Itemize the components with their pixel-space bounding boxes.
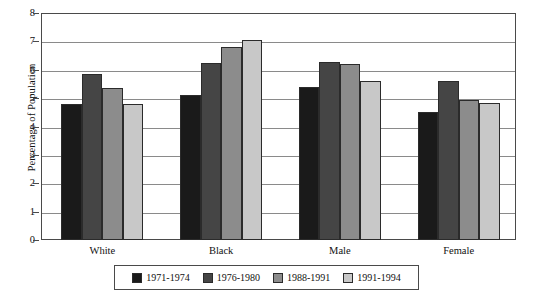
x-axis-label-female: Female [443, 245, 474, 256]
plot-area [41, 13, 516, 240]
y-tick-mark [33, 183, 39, 184]
y-tick-label: 2 [7, 178, 35, 189]
legend-item: 1988-1991 [273, 273, 330, 283]
gridline [42, 156, 515, 157]
y-tick-mark [33, 240, 39, 241]
legend-item: 1971-1974 [132, 273, 189, 283]
legend-swatch-icon [343, 273, 353, 283]
gridline [42, 128, 515, 129]
gridline [42, 99, 515, 100]
legend-label: 1991-1994 [357, 273, 400, 283]
y-tick-label: 4 [7, 121, 35, 132]
y-tick-mark [33, 70, 39, 71]
legend-swatch-icon [203, 273, 213, 283]
legend-label: 1988-1991 [287, 273, 330, 283]
legend-label: 1976-1980 [217, 273, 260, 283]
y-tick-label: 6 [7, 65, 35, 76]
legend-item: 1976-1980 [203, 273, 260, 283]
gridline [42, 71, 515, 72]
y-tick-label: 1 [7, 206, 35, 217]
y-tick-label: 5 [7, 93, 35, 104]
bar-chart: Percentage of Population 012345678 White… [0, 0, 533, 305]
y-tick-mark [33, 212, 39, 213]
y-tick-label: 3 [7, 150, 35, 161]
y-tick-label: 7 [7, 36, 35, 47]
gridline [42, 213, 515, 214]
y-tick-mark [33, 41, 39, 42]
x-axis-label-white: White [90, 245, 116, 256]
y-tick-mark [33, 13, 39, 14]
legend-swatch-icon [132, 273, 142, 283]
y-tick-label: 8 [7, 8, 35, 19]
legend-label: 1971-1974 [146, 273, 189, 283]
y-tick-mark [33, 155, 39, 156]
y-axis-ticks: 012345678 [0, 13, 35, 240]
x-axis-label-male: Male [329, 245, 351, 256]
x-axis-label-black: Black [209, 245, 234, 256]
y-tick-label: 0 [7, 235, 35, 246]
y-tick-mark [33, 127, 39, 128]
gridline [42, 42, 515, 43]
legend: 1971-19741976-19801988-19911991-1994 [114, 265, 419, 290]
gridline [42, 184, 515, 185]
legend-item: 1991-1994 [343, 273, 400, 283]
legend-swatch-icon [273, 273, 283, 283]
y-tick-mark [33, 98, 39, 99]
